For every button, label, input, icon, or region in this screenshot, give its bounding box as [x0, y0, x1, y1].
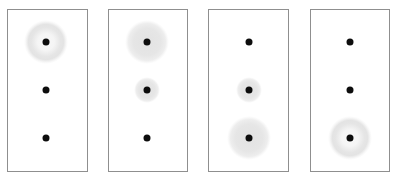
data-point-dot: [246, 87, 253, 94]
data-point-dot: [144, 135, 151, 142]
data-point-dot: [347, 135, 354, 142]
data-point-dot: [246, 135, 253, 142]
data-point-dot: [347, 39, 354, 46]
data-point-dot: [43, 87, 50, 94]
figure-root: [0, 0, 398, 181]
data-point-dot: [144, 39, 151, 46]
data-point-dot: [246, 39, 253, 46]
data-point-dot: [144, 87, 151, 94]
data-point-dot: [347, 87, 354, 94]
data-point-dot: [43, 135, 50, 142]
data-point-dot: [43, 39, 50, 46]
